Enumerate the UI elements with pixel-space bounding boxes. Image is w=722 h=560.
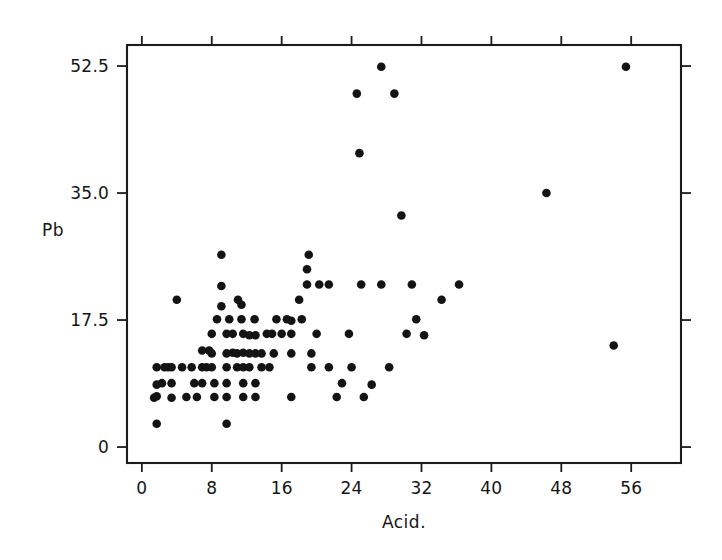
data-point bbox=[353, 89, 362, 98]
data-point bbox=[207, 349, 216, 358]
data-point bbox=[182, 393, 191, 402]
data-point bbox=[377, 280, 386, 289]
data-point bbox=[173, 295, 182, 304]
data-point bbox=[257, 363, 266, 372]
y-tick-label-35.0: 35.0 bbox=[70, 183, 109, 203]
data-point bbox=[455, 280, 464, 289]
data-point bbox=[225, 315, 234, 324]
data-point bbox=[245, 363, 254, 372]
plot-canvas: 08162432404856 017.535.052.5 Acid. Pb bbox=[0, 0, 722, 560]
data-point bbox=[408, 280, 417, 289]
data-point bbox=[222, 379, 231, 388]
data-point bbox=[257, 349, 266, 358]
y-axis-ticks-right bbox=[681, 66, 691, 447]
data-point bbox=[402, 330, 411, 339]
x-tick-label-32: 32 bbox=[410, 478, 432, 498]
data-point bbox=[297, 315, 306, 324]
data-point bbox=[355, 149, 364, 158]
data-point bbox=[217, 282, 226, 291]
data-point bbox=[152, 420, 161, 429]
x-tick-label-16: 16 bbox=[271, 478, 293, 498]
x-tick-label-24: 24 bbox=[341, 478, 363, 498]
data-point bbox=[272, 315, 281, 324]
data-point bbox=[437, 295, 446, 304]
data-point bbox=[210, 379, 219, 388]
data-point bbox=[250, 315, 259, 324]
data-point bbox=[303, 265, 312, 274]
x-tick-label-56: 56 bbox=[620, 478, 642, 498]
data-point bbox=[270, 349, 279, 358]
data-point bbox=[357, 280, 366, 289]
data-point bbox=[251, 379, 260, 388]
data-point bbox=[338, 379, 347, 388]
data-point bbox=[332, 393, 341, 402]
data-point bbox=[325, 363, 334, 372]
data-point bbox=[542, 189, 551, 198]
data-point bbox=[228, 330, 237, 339]
x-tick-label-40: 40 bbox=[480, 478, 502, 498]
data-point bbox=[622, 62, 631, 71]
data-point bbox=[295, 295, 304, 304]
data-point bbox=[304, 250, 313, 259]
x-tick-label-0: 0 bbox=[136, 478, 147, 498]
data-point bbox=[234, 295, 243, 304]
data-point bbox=[287, 316, 296, 325]
data-point bbox=[213, 315, 222, 324]
y-tick-label-52.5: 52.5 bbox=[70, 56, 109, 76]
data-point bbox=[251, 393, 260, 402]
data-point bbox=[239, 393, 248, 402]
data-point bbox=[287, 330, 296, 339]
data-point bbox=[158, 379, 167, 388]
data-point bbox=[210, 393, 219, 402]
x-axis-ticks-bottom bbox=[142, 463, 631, 472]
data-point bbox=[217, 302, 226, 311]
data-point bbox=[367, 380, 376, 389]
data-point bbox=[268, 330, 277, 339]
data-point bbox=[239, 379, 248, 388]
data-point bbox=[307, 349, 316, 358]
data-point bbox=[277, 330, 286, 339]
data-point bbox=[287, 349, 296, 358]
data-point bbox=[164, 363, 173, 372]
data-point bbox=[265, 363, 274, 372]
data-point bbox=[178, 363, 187, 372]
data-point bbox=[385, 363, 394, 372]
y-axis-ticks-left bbox=[117, 66, 127, 447]
data-point bbox=[207, 330, 216, 339]
data-point bbox=[609, 341, 618, 350]
data-point bbox=[420, 331, 429, 340]
data-point bbox=[190, 379, 199, 388]
data-point bbox=[303, 280, 312, 289]
scatter-plot-figure: 08162432404856 017.535.052.5 Acid. Pb bbox=[0, 0, 722, 560]
x-axis-tick-labels: 08162432404856 bbox=[136, 478, 642, 498]
data-point bbox=[397, 211, 406, 220]
x-tick-label-48: 48 bbox=[550, 478, 572, 498]
data-point bbox=[202, 363, 211, 372]
y-tick-label-17.5: 17.5 bbox=[70, 310, 109, 330]
data-point bbox=[198, 379, 207, 388]
data-point bbox=[412, 315, 421, 324]
plot-frame bbox=[127, 45, 681, 463]
y-tick-label-0: 0 bbox=[98, 437, 109, 457]
data-point bbox=[167, 379, 176, 388]
data-point bbox=[187, 363, 196, 372]
data-point bbox=[390, 89, 399, 98]
x-axis-title: Acid. bbox=[382, 512, 426, 532]
data-point bbox=[307, 363, 316, 372]
data-point bbox=[312, 330, 321, 339]
data-point bbox=[315, 280, 324, 289]
data-point bbox=[345, 330, 354, 339]
data-point bbox=[237, 315, 246, 324]
data-point bbox=[377, 62, 386, 71]
data-point bbox=[347, 363, 356, 372]
y-axis-title: Pb bbox=[42, 220, 64, 240]
data-point bbox=[325, 280, 334, 289]
data-point bbox=[193, 393, 202, 402]
data-point bbox=[251, 331, 260, 340]
x-axis-ticks-top bbox=[142, 36, 631, 45]
data-point bbox=[217, 250, 226, 259]
data-point bbox=[287, 393, 296, 402]
data-point bbox=[167, 393, 176, 402]
data-point bbox=[150, 393, 159, 402]
data-point bbox=[360, 393, 369, 402]
